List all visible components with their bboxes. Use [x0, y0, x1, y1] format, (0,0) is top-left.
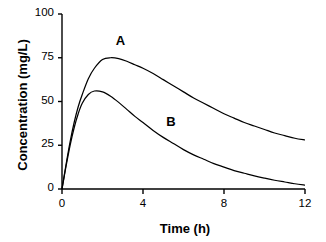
x-tick-label: 8 [209, 197, 239, 209]
x-tick-label: 0 [47, 197, 77, 209]
curve-label-b: B [166, 114, 175, 129]
curve-label-a: A [116, 33, 125, 48]
x-axis-ticks [62, 189, 305, 194]
data-curve-b [62, 91, 305, 189]
x-tick-label: 4 [128, 197, 158, 209]
chart-figure: 0 25 50 75 100 0 4 8 12 A B Time (h) Con… [0, 0, 326, 242]
y-axis-title-wrap: Concentration (mg/L) [13, 0, 31, 215]
x-tick-label: 12 [290, 197, 320, 209]
x-axis-title: Time (h) [22, 221, 326, 236]
data-curve-a [62, 58, 305, 189]
y-axis-title: Concentration (mg/L) [15, 39, 30, 170]
